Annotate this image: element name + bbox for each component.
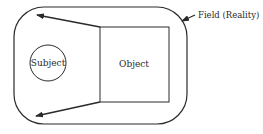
arrow-bottom — [36, 102, 100, 116]
object-label: Object — [119, 59, 149, 69]
diagram-canvas: Subject Object Field (Reality) — [0, 0, 263, 134]
arrow-top — [37, 15, 100, 27]
field-label-pointer — [182, 15, 195, 21]
subject-label: Subject — [31, 58, 66, 68]
field-label: Field (Reality) — [198, 10, 259, 20]
